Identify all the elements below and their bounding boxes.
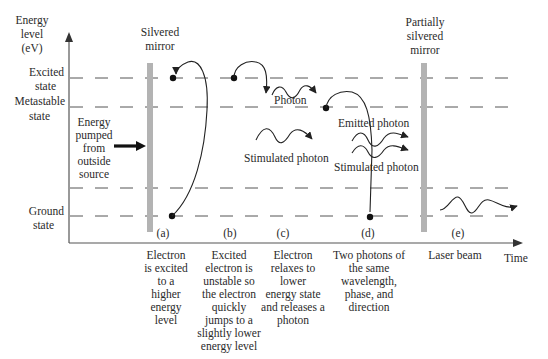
svg-text:level: level bbox=[155, 314, 177, 326]
y-axis-label-3: (eV) bbox=[21, 42, 42, 55]
excited-state-label-2: state bbox=[35, 80, 56, 92]
pump-label-3: from bbox=[83, 142, 105, 154]
laser-beam-wave bbox=[440, 197, 517, 213]
stimulated-photon-wave-c bbox=[256, 129, 312, 143]
partial-mirror-label-1: Partially bbox=[406, 16, 445, 29]
stimulated-photon-wave-d bbox=[352, 146, 408, 158]
svg-text:and releases a: and releases a bbox=[261, 301, 325, 313]
stage-d-tag: (d) bbox=[361, 227, 375, 240]
svg-text:energy state: energy state bbox=[265, 288, 320, 301]
stage-b-electron-path bbox=[231, 62, 267, 93]
svg-text:energy: energy bbox=[150, 301, 181, 314]
svg-text:photon: photon bbox=[277, 314, 309, 327]
y-axis-arrow-icon bbox=[65, 32, 73, 42]
y-axis-label-2: level bbox=[21, 28, 43, 40]
svg-text:quickly: quickly bbox=[212, 301, 247, 314]
electron-dot bbox=[367, 214, 373, 220]
stage-d-description: Two photons of the same wavelength, phas… bbox=[333, 249, 405, 313]
partial-mirror-label-2: silvered bbox=[407, 30, 444, 42]
svg-text:to a: to a bbox=[158, 275, 175, 287]
svg-text:wavelength,: wavelength, bbox=[341, 275, 397, 288]
excited-state-label-1: Excited bbox=[29, 66, 64, 78]
ground-state-label-2: state bbox=[33, 219, 54, 231]
stage-b-tag: (b) bbox=[223, 227, 237, 240]
stage-e-description: Laser beam bbox=[428, 249, 481, 261]
stage-a-electron-path bbox=[169, 61, 207, 219]
ground-state-label-1: Ground bbox=[29, 205, 64, 217]
x-axis-label: Time bbox=[504, 252, 528, 264]
stage-c-description: Electron relaxes to lower energy state a… bbox=[261, 249, 325, 327]
metastable-state-label-1: Metastable bbox=[15, 95, 65, 107]
pump-label-2: pumped bbox=[75, 129, 112, 142]
stage-a-description: Electron is excited to a higher energy l… bbox=[144, 249, 188, 326]
stage-e-tag: (e) bbox=[452, 227, 465, 240]
electron-dot bbox=[170, 75, 176, 81]
svg-text:relaxes to: relaxes to bbox=[271, 262, 316, 274]
svg-text:energy level: energy level bbox=[201, 340, 257, 353]
svg-text:jumps to a: jumps to a bbox=[204, 314, 253, 327]
svg-text:lower: lower bbox=[280, 275, 306, 287]
pump-arrow-icon bbox=[114, 141, 146, 151]
stimulated-photon-label-c: Stimulated photon bbox=[244, 152, 329, 165]
stimulated-photon-label-d: Stimulated photon bbox=[334, 161, 419, 174]
y-axis bbox=[65, 32, 73, 243]
svg-text:Excited: Excited bbox=[211, 249, 246, 261]
emitted-photon-label: Emitted photon bbox=[338, 117, 409, 130]
pump-label-1: Energy bbox=[77, 116, 110, 129]
partial-mirror-label-3: mirror bbox=[410, 44, 440, 56]
x-axis-arrow-icon bbox=[513, 239, 523, 247]
svg-text:the same: the same bbox=[349, 262, 390, 274]
stage-b-description: Excited electron is unstable so the elec… bbox=[197, 249, 261, 353]
stage-d-electron-path bbox=[323, 92, 373, 221]
photon-label: Photon bbox=[274, 94, 307, 106]
svg-text:the electron: the electron bbox=[202, 288, 256, 300]
svg-text:phase, and: phase, and bbox=[345, 288, 394, 301]
svg-text:Electron: Electron bbox=[274, 249, 313, 261]
silvered-mirror bbox=[147, 63, 153, 232]
svg-text:Laser beam: Laser beam bbox=[428, 249, 481, 261]
svg-text:electron is: electron is bbox=[205, 262, 253, 274]
stage-a-tag: (a) bbox=[157, 227, 170, 240]
stage-c-tag: (c) bbox=[277, 227, 290, 240]
pump-label-4: outside bbox=[77, 155, 110, 167]
x-axis bbox=[69, 239, 523, 247]
svg-text:Electron: Electron bbox=[147, 249, 186, 261]
silvered-mirror-label-1: Silvered bbox=[141, 26, 180, 38]
svg-text:slightly lower: slightly lower bbox=[197, 327, 261, 340]
silvered-mirror-label-2: mirror bbox=[145, 40, 175, 52]
y-axis-label-1: Energy bbox=[15, 14, 48, 27]
partially-silvered-mirror bbox=[421, 63, 427, 232]
svg-text:higher: higher bbox=[151, 288, 181, 301]
metastable-state-label-2: state bbox=[29, 110, 50, 122]
laser-diagram: Energy level (eV) Excited state Metastab… bbox=[0, 0, 548, 359]
svg-text:Two photons of: Two photons of bbox=[333, 249, 405, 262]
pump-label-5: source bbox=[79, 168, 109, 180]
svg-text:is excited: is excited bbox=[144, 262, 188, 274]
svg-text:unstable so: unstable so bbox=[203, 275, 255, 287]
svg-text:direction: direction bbox=[349, 301, 390, 313]
emitted-photon-wave bbox=[352, 133, 408, 146]
